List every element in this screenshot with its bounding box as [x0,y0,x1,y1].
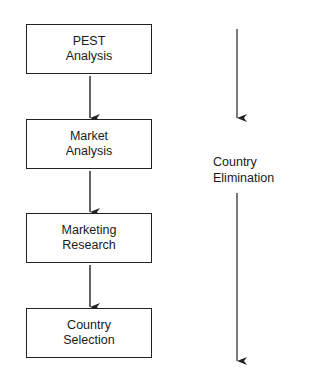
step-label-line1: PEST [73,34,106,49]
side-label-line1: Country [213,154,274,170]
step-label-line1: Marketing [62,223,117,238]
step-label-line2: Selection [63,333,114,348]
step-marketing-research: Marketing Research [26,213,152,263]
step-label-line2: Analysis [66,49,113,64]
step-country-selection: Country Selection [26,308,152,358]
step-pest-analysis: PEST Analysis [26,24,152,74]
step-label-line1: Market [70,129,108,144]
country-elimination-label: Country Elimination [213,154,274,186]
step-label-line1: Country [67,318,111,333]
side-label-line2: Elimination [213,170,274,186]
step-label-line2: Analysis [66,144,113,159]
step-label-line2: Research [62,238,116,253]
step-market-analysis: Market Analysis [26,119,152,169]
